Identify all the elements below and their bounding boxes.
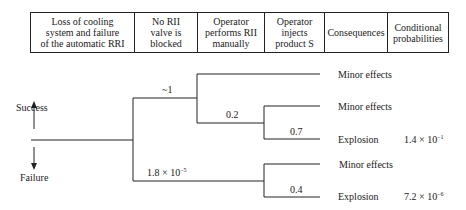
event-tree-branches	[0, 0, 466, 210]
outcome-consequence: Minor effects	[339, 159, 393, 170]
outcome-consequence: Explosion	[338, 191, 379, 202]
branch-prob-lower-inject: 0.4	[290, 184, 303, 195]
failure-arrowhead-icon	[31, 163, 37, 170]
branch-prob-rii-ok: ~1	[162, 84, 172, 95]
branch-prob-rii-blocked: 1.8 × 10−5	[147, 167, 187, 178]
outcome-probability: 1.4 × 10−1	[404, 134, 444, 145]
branch-prob-inject: 0.7	[290, 126, 303, 137]
outcome-probability: 7.2 × 10−6	[404, 191, 444, 202]
branch-prob-operator-rii: 0.2	[226, 109, 239, 120]
success-label: Success	[16, 102, 48, 113]
failure-label: Failure	[20, 172, 48, 183]
outcome-consequence: Minor effects	[338, 69, 392, 80]
outcome-consequence: Minor effects	[338, 101, 392, 112]
outcome-consequence: Explosion	[338, 134, 379, 145]
